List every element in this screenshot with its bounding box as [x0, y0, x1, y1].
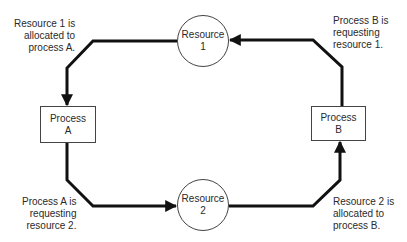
resource-2-node: Resource 2 [177, 179, 229, 231]
process-b-label: Process [320, 112, 356, 124]
annotation-top-right: Process B is requesting resource 1. [333, 15, 389, 51]
resource-1-number: 1 [200, 41, 206, 53]
edge-processB-to-resource1 [230, 40, 342, 106]
edge-resource1-to-processA [67, 41, 177, 105]
resource-1-node: Resource 1 [177, 15, 229, 67]
resource-2-label: Resource [182, 193, 225, 205]
annotation-bottom-left: Process A is requesting resource 2. [22, 196, 76, 232]
process-a-letter: A [65, 125, 72, 137]
process-b-node: Process B [311, 106, 366, 141]
annotation-top-left: Resource 1 is allocated to process A. [14, 18, 75, 54]
resource-1-label: Resource [182, 29, 225, 41]
edge-processA-to-resource2 [67, 143, 176, 206]
resource-2-number: 2 [200, 205, 206, 217]
annotation-bottom-right: Resource 2 is allocated to process B. [333, 196, 394, 232]
process-a-node: Process A [40, 106, 96, 143]
edge-resource2-to-processB [229, 142, 340, 206]
process-a-label: Process [50, 113, 86, 125]
process-b-letter: B [335, 124, 342, 136]
